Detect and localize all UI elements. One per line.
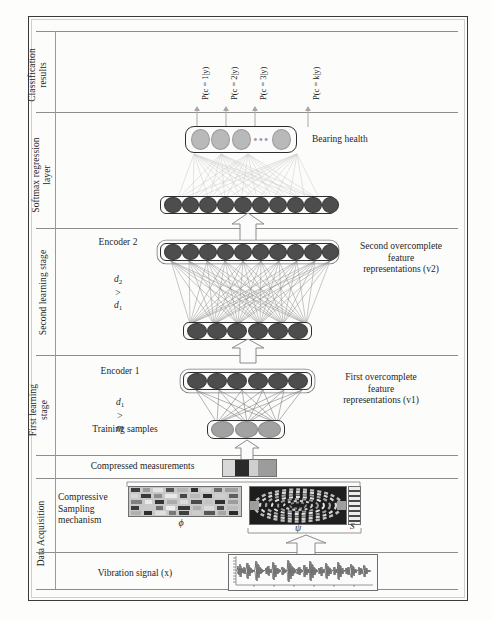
compressed-to-training-arrow	[232, 439, 262, 461]
vibration-signal-plot	[228, 554, 378, 591]
vibration-to-sampling-arrow	[283, 534, 329, 556]
encoder1-label: Encoder 1	[60, 366, 180, 378]
compressed-cell-2	[235, 460, 249, 476]
softmax-node-1	[191, 129, 210, 150]
encoder2-gt-symbol: >	[115, 288, 120, 298]
divider-top	[36, 31, 458, 32]
phi-matrix	[128, 486, 242, 517]
training-samples-label: Training samples	[60, 424, 190, 436]
stage-label-second-learning: Second learning stage	[38, 233, 49, 353]
softmax-node-2	[211, 129, 230, 150]
v2-copy-node-2	[182, 197, 200, 213]
encoder2-d2-subscript: 2	[119, 278, 123, 286]
v2-copy-node-8	[287, 197, 305, 213]
encoder2-layer	[160, 243, 336, 261]
encoder1-gt-symbol: >	[117, 411, 122, 421]
softmax-node-3	[232, 129, 251, 150]
encoder2-d1-subscript: 1	[119, 304, 123, 312]
softmax-node-k	[272, 129, 291, 150]
phi-matrix-texture	[129, 487, 241, 516]
training-sample-node-3	[258, 421, 281, 438]
encoder2-node-4	[217, 244, 235, 260]
v2-copy-node-1	[164, 197, 182, 213]
stage-label-separator	[55, 31, 56, 589]
compressed-cell-1	[223, 460, 235, 476]
vibration-signal-label: Vibration signal (x)	[60, 568, 210, 580]
v2-copy-node-7	[269, 197, 287, 213]
divider-sampling	[36, 552, 458, 553]
divider-compressed	[36, 478, 458, 479]
feature-transfer-arrow-v2	[228, 212, 268, 244]
encoder2-node-2	[182, 244, 200, 260]
training-sample-node-2	[235, 421, 258, 438]
v2-copy-node-6	[252, 197, 270, 213]
classification-output-k: P(c = k|y)	[311, 67, 321, 100]
encoder1-d1-subscript: 1	[121, 401, 125, 409]
training-samples-layer	[207, 420, 285, 439]
stage-label-first-learning: First learning stage	[28, 368, 50, 453]
feature-transfer-arrow-v1	[228, 338, 268, 364]
encoder2-node-8	[287, 244, 305, 260]
encoder2-node-6	[252, 244, 270, 260]
v1-node-2	[207, 323, 227, 339]
compressive-sampling-bracket	[126, 480, 362, 488]
encoder2-node-5	[234, 244, 252, 260]
encoder1-node-1	[187, 373, 207, 389]
v1-node-3	[227, 323, 247, 339]
compressed-cell-3	[249, 460, 258, 476]
encoder1-node-3	[227, 373, 247, 389]
v1-node-1	[187, 323, 207, 339]
encoder1-node-2	[207, 373, 227, 389]
psi-matrix	[249, 486, 347, 525]
encoder2-node-10	[322, 244, 340, 260]
v1-node-4	[248, 323, 268, 339]
bearing-health-label: Bearing health	[312, 134, 432, 146]
softmax-output-layer: •••	[185, 126, 297, 153]
encoder2-condition-label: d2 > d1	[58, 262, 178, 314]
compressed-cell-4	[258, 460, 276, 476]
v2-copy-node-5	[234, 197, 252, 213]
encoder1-node-5	[268, 373, 288, 389]
v2-copy-node-9	[304, 197, 322, 213]
phi-symbol-label: ϕ	[168, 517, 194, 528]
compressed-measurements-block	[222, 459, 277, 477]
encoder1-node-4	[248, 373, 268, 389]
psi-matrix-texture	[250, 487, 346, 524]
sparse-vector-texture	[349, 487, 360, 524]
compressed-measurements-label: Compressed measurements	[60, 461, 225, 473]
v2-copy-node-4	[217, 197, 235, 213]
vibration-waveform	[229, 555, 377, 590]
v2-copy-node-10	[322, 197, 340, 213]
stage-label-data-acquisition: Data Acquisition	[36, 481, 47, 586]
stage-label-softmax: Softmax regression layer	[31, 120, 53, 230]
classification-output-1: P(c = 1|y)	[200, 67, 210, 100]
stage-label-classification: Classification results	[27, 30, 49, 120]
encoder2-node-9	[304, 244, 322, 260]
training-sample-node-1	[211, 421, 234, 438]
sparse-vector-strip	[348, 486, 361, 525]
output-arrows	[190, 104, 340, 128]
classification-output-3: P(c = 3|y)	[258, 67, 268, 100]
classification-output-2: P(c = 2|y)	[229, 67, 239, 100]
v1-node-6	[288, 323, 308, 339]
encoder2-label: Encoder 2	[58, 237, 178, 249]
first-overcomplete-label: First overcomplete feature representatio…	[320, 372, 442, 407]
second-overcomplete-label: Second overcomplete feature representati…	[340, 241, 462, 276]
v2-copy-node-3	[199, 197, 217, 213]
encoder2-node-7	[269, 244, 287, 260]
encoder1-node-6	[288, 373, 308, 389]
encoder1-layer	[183, 372, 312, 390]
v1-node-5	[268, 323, 288, 339]
figure-canvas: Classification results Softmax regressio…	[0, 0, 492, 619]
encoder2-node-3	[199, 244, 217, 260]
